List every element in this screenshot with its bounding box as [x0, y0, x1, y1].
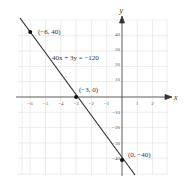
svg-text:−20: −20 [112, 125, 120, 130]
svg-text:−10: −10 [112, 110, 120, 115]
y-axis-label: y [119, 6, 124, 15]
x-axis-label: x [173, 93, 178, 102]
point-neg6-40 [28, 30, 32, 34]
point-0-neg40 [120, 158, 124, 162]
svg-text:−4: −4 [58, 101, 64, 106]
svg-text:−3: −3 [73, 101, 79, 106]
x-tick-labels: −6 −5 −4 −3 −2 −1 1 2 [27, 101, 154, 106]
svg-text:20: 20 [115, 62, 121, 67]
svg-text:2: 2 [151, 101, 154, 106]
svg-text:−5: −5 [43, 101, 49, 106]
svg-text:−2: −2 [89, 101, 95, 106]
svg-text:1: 1 [136, 101, 139, 106]
svg-text:−6: −6 [27, 101, 33, 106]
svg-text:−1: −1 [104, 101, 110, 106]
point-label-neg3-0: (−3, 0) [79, 86, 99, 94]
svg-text:10: 10 [115, 77, 121, 82]
graph: x y −6 −5 −4 −3 −2 −1 1 2 40 30 20 10 −1… [0, 0, 186, 187]
equation-label: 40x + 3y = −120 [52, 54, 99, 62]
svg-text:40: 40 [115, 32, 121, 37]
svg-text:−40: −40 [112, 156, 120, 161]
point-neg3-0 [74, 95, 78, 99]
point-label-neg6-40: (−6, 40) [38, 28, 61, 36]
svg-text:30: 30 [115, 47, 121, 52]
point-label-0-neg40: (0, −40) [128, 151, 151, 159]
